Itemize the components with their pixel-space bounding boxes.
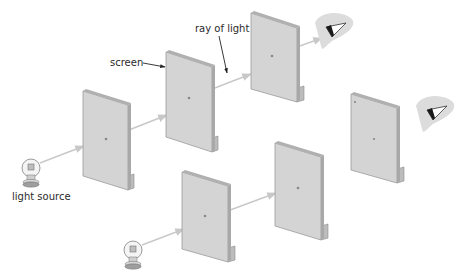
- screen-4: [351, 92, 404, 183]
- light-bulb-icon: [124, 241, 142, 269]
- pinhole: [354, 101, 356, 103]
- screen-3: [251, 11, 304, 102]
- screen-6: [275, 141, 328, 240]
- eye-icon: [315, 13, 353, 49]
- pinhole: [373, 138, 375, 140]
- pinhole: [188, 97, 191, 100]
- screen-5: [182, 170, 235, 262]
- pinhole: [297, 187, 300, 190]
- pinhole: [105, 138, 108, 141]
- label-ray-of-light: ray of light: [195, 23, 249, 34]
- pinhole: [271, 55, 274, 58]
- screen-2: [166, 50, 218, 152]
- label-screen: screen: [110, 57, 143, 68]
- label-light-source: light source: [12, 191, 71, 202]
- diagram-canvas: screen ray of light light source: [0, 0, 462, 280]
- ray-segment: [142, 229, 184, 245]
- screen-1: [83, 89, 134, 190]
- pointer-arrow-ray: [219, 36, 227, 73]
- eye-icon: [416, 96, 454, 132]
- ray-segment: [40, 146, 84, 163]
- light-bulb-icon: [22, 159, 40, 187]
- pinhole: [204, 215, 207, 218]
- pointer-arrow-screen: [143, 63, 165, 67]
